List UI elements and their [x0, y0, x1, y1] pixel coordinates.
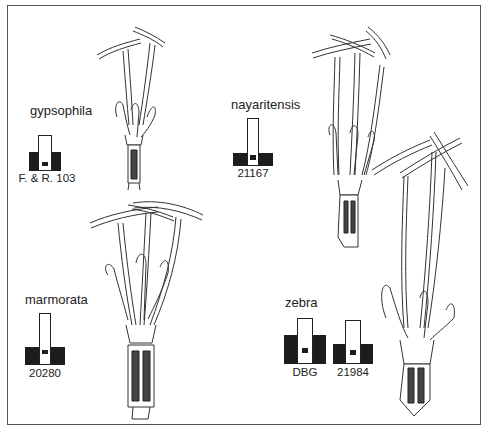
stamen-diagram-nayaritensis: [233, 118, 273, 166]
stamen-diagram-zebra-dbg: [284, 318, 326, 364]
specimen-code-nayaritensis: 21167: [228, 167, 278, 179]
specimen-code-marmorata: 20280: [20, 367, 70, 379]
stamen-diagram-marmorata: [25, 313, 65, 365]
species-label-zebra: zebra: [285, 295, 318, 310]
specimen-code-gypsophila: F. & R. 103: [17, 172, 77, 184]
species-label-nayaritensis: nayaritensis: [231, 97, 300, 112]
flower-illustration-marmorata: [88, 195, 208, 425]
species-label-gypsophila: gypsophila: [30, 103, 92, 118]
specimen-code-zebra-dbg: DBG: [280, 366, 330, 378]
stamen-diagram-gypsophila: [29, 135, 61, 171]
species-label-marmorata: marmorata: [25, 292, 88, 307]
flower-illustration-gypsophila: [95, 25, 175, 190]
flower-illustration-zebra: [370, 128, 470, 418]
stamen-diagram-zebra-21984: [333, 320, 373, 364]
